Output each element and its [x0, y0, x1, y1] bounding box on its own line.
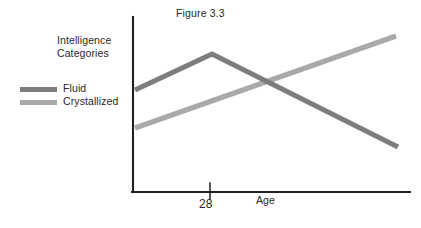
series-line-fluid — [135, 54, 398, 147]
plot-area — [0, 0, 421, 228]
figure-container: Figure 3.3 Intelligence Categories Fluid… — [0, 0, 421, 228]
x-axis-title: Age — [256, 195, 275, 206]
x-axis-tick-label: 28 — [199, 198, 213, 211]
